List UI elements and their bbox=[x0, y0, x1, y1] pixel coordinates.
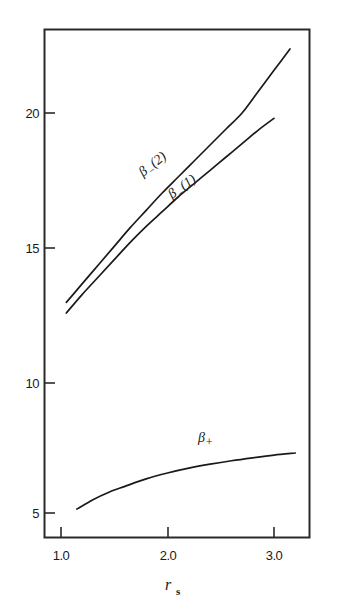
svg-text:β−(2): β−(2) bbox=[135, 148, 171, 182]
curve-beta-minus-1 bbox=[66, 118, 274, 313]
x-tick-label-1: 1.0 bbox=[53, 548, 70, 563]
y-tick-label-15: 15 bbox=[26, 241, 40, 256]
x-tick-label-3: 3.0 bbox=[266, 548, 283, 563]
svg-text:β+: β+ bbox=[197, 430, 213, 449]
y-axis-ticks bbox=[45, 113, 56, 513]
annotation-beta-minus-1: β−(1) bbox=[164, 171, 201, 204]
x-axis-title-main: r bbox=[165, 576, 172, 593]
beta-plus-sub: + bbox=[205, 435, 213, 449]
x-axis-tick-labels: 1.0 2.0 3.0 bbox=[53, 548, 283, 563]
curve-beta-minus-2 bbox=[66, 49, 290, 302]
chart-svg: 20 15 10 5 1.0 2.0 3.0 r s bbox=[0, 0, 338, 612]
beta-plus-base: β bbox=[197, 430, 205, 445]
svg-text:β−(1): β−(1) bbox=[164, 171, 201, 204]
y-tick-label-20: 20 bbox=[26, 106, 40, 121]
annotation-beta-plus: β+ bbox=[197, 430, 213, 449]
x-tick-label-2: 2.0 bbox=[160, 548, 177, 563]
x-axis-ticks bbox=[61, 527, 274, 538]
x-axis-title: r s bbox=[165, 576, 181, 597]
figure-container: 20 15 10 5 1.0 2.0 3.0 r s bbox=[0, 0, 338, 612]
curve-beta-plus bbox=[77, 453, 295, 509]
data-curves bbox=[66, 49, 295, 509]
annotation-beta-minus-2: β−(2) bbox=[135, 148, 171, 182]
plot-frame bbox=[45, 30, 310, 538]
y-tick-label-5: 5 bbox=[32, 506, 39, 521]
y-axis-tick-labels: 20 15 10 5 bbox=[26, 106, 40, 521]
curve-annotations: β−(2) β−(1) β+ bbox=[135, 148, 213, 449]
y-tick-label-10: 10 bbox=[26, 376, 40, 391]
x-axis-title-sub: s bbox=[176, 585, 181, 597]
